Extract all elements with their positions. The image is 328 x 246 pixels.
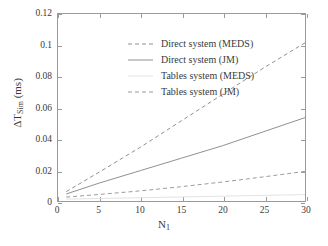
- y-axis-tick-label: 0.12: [6, 8, 52, 18]
- y-axis-title: ΔTSim (ms): [11, 38, 25, 168]
- x-axis-title-base: N: [158, 218, 166, 230]
- legend: Direct system (MEDS)Direct system (JM)Ta…: [128, 36, 288, 100]
- plot-area: Direct system (MEDS)Direct system (JM)Ta…: [57, 13, 306, 202]
- x-axis-tick-label: 25: [250, 205, 280, 215]
- x-axis-tick-label: 30: [291, 205, 321, 215]
- x-axis-tick-label: 20: [208, 205, 238, 215]
- legend-label: Direct system (JM): [161, 54, 238, 66]
- chart-figure: 00.020.040.060.080.10.12 ΔTSim (ms) Dire…: [0, 0, 328, 246]
- y-axis-tick: [301, 203, 305, 204]
- x-axis-tick: [307, 197, 308, 201]
- legend-line-sample: [128, 71, 153, 81]
- y-axis-title-unit: (ms): [11, 78, 23, 101]
- legend-label: Tables system (JM): [161, 86, 239, 98]
- x-axis-tick-label: 10: [125, 205, 155, 215]
- legend-line-sample: [128, 39, 153, 49]
- legend-label: Direct system (MEDS): [161, 38, 253, 50]
- legend-label: Tables system (MEDS): [161, 70, 254, 82]
- series-line: [66, 118, 305, 194]
- x-axis-tick-label: 0: [42, 205, 72, 215]
- series-line: [66, 195, 305, 200]
- y-axis-title-subscript: Sim: [16, 101, 25, 114]
- x-axis-title: N1: [0, 218, 328, 232]
- legend-item: Tables system (MEDS): [128, 68, 288, 84]
- legend-line-sample: [128, 87, 153, 97]
- x-axis-tick: [307, 14, 308, 18]
- legend-item: Direct system (JM): [128, 52, 288, 68]
- series-line: [66, 171, 305, 197]
- x-axis-title-subscript: 1: [166, 223, 170, 232]
- x-axis-tick-label: 15: [167, 205, 197, 215]
- legend-item: Tables system (JM): [128, 84, 288, 100]
- y-axis-tick: [58, 203, 62, 204]
- x-axis-tick-label: 5: [84, 205, 114, 215]
- legend-item: Direct system (MEDS): [128, 36, 288, 52]
- y-axis-title-base: ΔT: [11, 114, 23, 128]
- legend-line-sample: [128, 55, 153, 65]
